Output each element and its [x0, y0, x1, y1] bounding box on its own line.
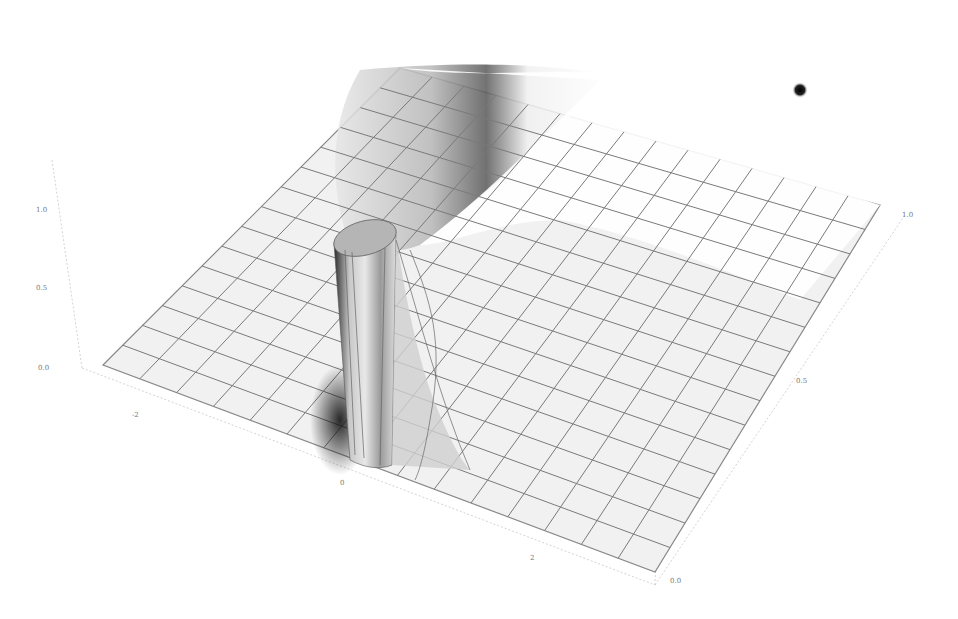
x-tick-neg2: -2: [132, 411, 139, 419]
y-tick-0: 0.0: [670, 577, 681, 585]
z-tick-0: 0.0: [38, 364, 49, 372]
z-tick-0.5: 0.5: [36, 284, 47, 292]
z-tick-1: 1.0: [36, 206, 47, 214]
surface-plot: 1.0 0.5 0.0 -2 0 2 0.0 0.5 1.0: [0, 0, 958, 619]
vertical-axis-labels: 1.0 0.5 0.0: [36, 206, 49, 372]
y-tick-0.5: 0.5: [796, 377, 807, 385]
y-tick-1: 1.0: [902, 211, 913, 219]
marker-dot: [792, 82, 808, 98]
x-tick-0: 0: [340, 479, 344, 487]
x-tick-2: 2: [530, 554, 534, 562]
